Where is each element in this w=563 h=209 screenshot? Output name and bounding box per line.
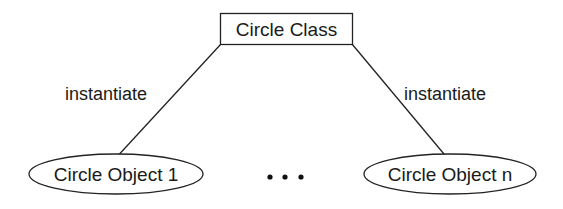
edge-label-left: instantiate [65, 84, 147, 104]
class-label: Circle Class [236, 19, 337, 40]
object-node-1: Circle Object 1 [29, 154, 203, 194]
object-label-1: Circle Object 1 [54, 164, 179, 185]
class-node: Circle Class [221, 14, 353, 45]
ellipsis-dot [298, 174, 303, 179]
ellipsis-dot [267, 174, 272, 179]
object-node-n: Circle Object n [364, 154, 536, 194]
ellipsis-dots [267, 174, 303, 179]
object-label-n: Circle Object n [388, 164, 513, 185]
ellipsis-dot [282, 174, 287, 179]
class-instantiation-diagram: Circle Class instantiate instantiate Cir… [0, 0, 563, 209]
edge-label-right: instantiate [404, 84, 486, 104]
